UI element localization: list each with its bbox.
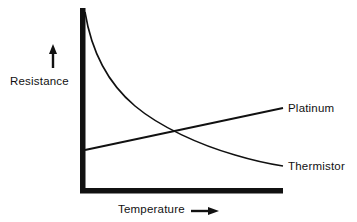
y-axis: [80, 8, 86, 193]
x-axis: [80, 188, 283, 194]
up-arrow-icon: [49, 44, 57, 68]
thermistor-label: Thermistor: [288, 161, 345, 173]
right-arrow-icon: [191, 207, 219, 215]
y-axis-label: Resistance: [10, 76, 69, 88]
platinum-line: [85, 108, 283, 150]
x-axis-label: Temperature: [118, 204, 185, 216]
platinum-label: Platinum: [288, 103, 334, 115]
